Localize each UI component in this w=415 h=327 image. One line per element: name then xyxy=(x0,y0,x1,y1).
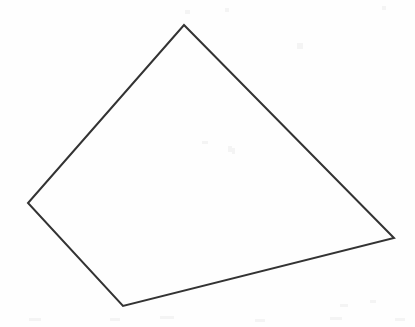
figure-canvas xyxy=(0,0,415,327)
quadrilateral-diagram xyxy=(0,0,415,327)
